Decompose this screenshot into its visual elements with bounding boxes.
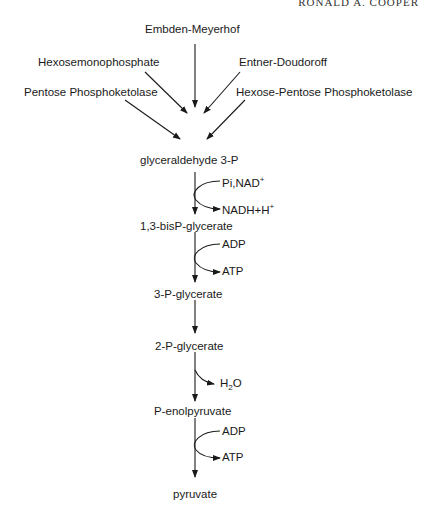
cofactor-atp-1: ATP [222, 266, 244, 278]
metabolite-glyceraldehyde-3p: glyceraldehyde 3-P [140, 155, 238, 167]
cofactor-adp-2: ADP [222, 426, 246, 438]
pathway-hexosemonophosphate: Hexosemonophosphate [38, 57, 159, 69]
cofactor-nadh: NADH+H+ [222, 203, 274, 216]
metabolite-pyruvate: pyruvate [173, 489, 217, 501]
metabolite-p-enolpyruvate: P-enolpyruvate [154, 406, 231, 418]
arrow-entner-doudoroff [204, 72, 240, 113]
cofactor-h2o: H2O [220, 378, 242, 392]
metabolite-2-p-glycerate: 2-P-glycerate [155, 341, 223, 353]
metabolite-3-p-glycerate: 3-P-glycerate [154, 289, 222, 301]
cofactor-atp-2: ATP [222, 452, 244, 464]
cofactor-pi-nad: Pi,NAD+ [222, 176, 264, 189]
pathway-embden-meyerhof: Embden-Meyerhof [145, 24, 240, 36]
arrow-pentose-phosphoketolase [125, 100, 180, 139]
pathway-pentose-phosphoketolase: Pentose Phosphoketolase [24, 87, 158, 99]
metabolite-1-3-bisp-glycerate: 1,3-bisP-glycerate [140, 221, 233, 233]
arrow-hexose-pentose-phosphoketolase [207, 100, 245, 139]
cofactor-adp-1: ADP [222, 239, 246, 251]
pathway-arrows [0, 0, 441, 505]
pathway-hexose-pentose-phosphoketolase: Hexose-Pentose Phosphoketolase [236, 87, 412, 99]
pathway-entner-doudoroff: Entner-Doudoroff [239, 57, 327, 69]
